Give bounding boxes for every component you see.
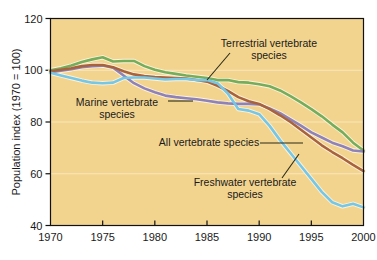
annotation-line: Marine vertebrate xyxy=(76,96,158,108)
y-tick-label-60: 60 xyxy=(30,168,42,180)
y-tick-label-120: 120 xyxy=(24,13,42,25)
y-tick-label-80: 80 xyxy=(30,116,42,128)
annotation-line: species xyxy=(251,49,287,61)
y-axis-title: Population index (1970 = 100) xyxy=(10,48,22,195)
annotation-line: species xyxy=(99,108,135,120)
annotation-line: species xyxy=(227,188,263,200)
x-tick-label-1995: 1995 xyxy=(299,231,323,243)
x-tick-label-1975: 1975 xyxy=(90,231,114,243)
annotation-line: Freshwater vertebrate xyxy=(194,176,297,188)
annotation-label-all-vertebrate: All vertebrate species xyxy=(159,136,259,148)
x-tick-label-1980: 1980 xyxy=(143,231,167,243)
x-tick-label-1990: 1990 xyxy=(247,231,271,243)
x-tick-label-1970: 1970 xyxy=(38,231,62,243)
y-tick-label-100: 100 xyxy=(24,64,42,76)
x-tick-label-1985: 1985 xyxy=(195,231,219,243)
y-axis-title-text: Population index (1970 = 100) xyxy=(10,48,22,195)
annotation-line: All vertebrate species xyxy=(159,136,259,148)
x-tick-label-2000: 2000 xyxy=(351,231,375,243)
population-index-line-chart: 406080100120 197019751980198519901995200… xyxy=(0,0,377,260)
annotation-line: Terrestrial vertebrate xyxy=(221,37,317,49)
chart-figure: 406080100120 197019751980198519901995200… xyxy=(0,0,377,260)
